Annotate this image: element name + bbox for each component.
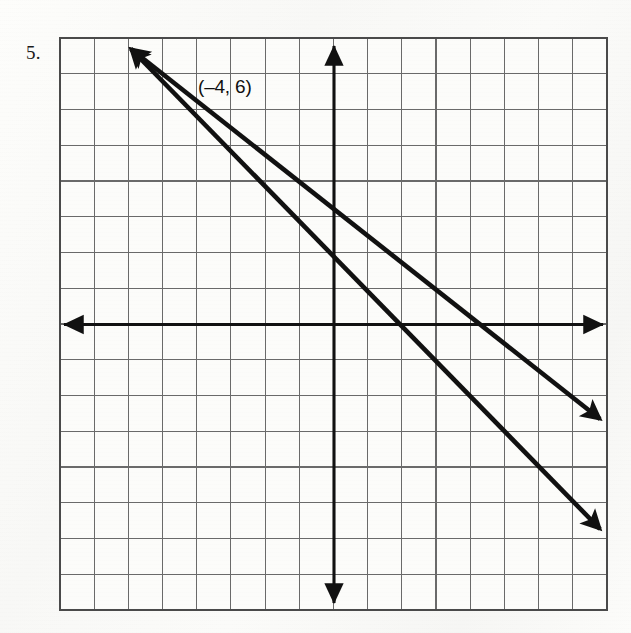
worksheet-page: 5. <box>0 0 631 633</box>
graph-canvas <box>0 0 631 633</box>
coordinate-graph: (–4, 6) <box>0 0 631 633</box>
point-annotation-label: (–4, 6) <box>198 76 252 98</box>
